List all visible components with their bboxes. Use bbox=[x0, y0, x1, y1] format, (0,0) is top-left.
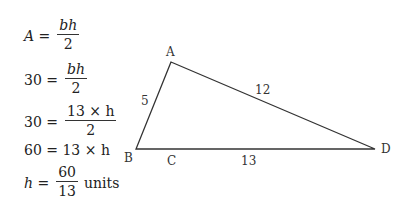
vertex-label-c: C bbox=[167, 154, 176, 168]
side-label-bd: 13 bbox=[241, 154, 256, 168]
triangle-abd bbox=[136, 62, 375, 149]
vertex-label-d: D bbox=[381, 142, 391, 156]
triangle-diagram: A B C D 5 12 13 bbox=[0, 0, 410, 214]
side-label-ad: 12 bbox=[255, 83, 270, 97]
vertex-label-b: B bbox=[124, 151, 133, 165]
vertex-label-a: A bbox=[165, 45, 175, 59]
side-label-ab: 5 bbox=[141, 94, 149, 108]
